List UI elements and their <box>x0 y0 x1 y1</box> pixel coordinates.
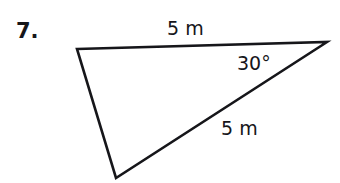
geometry-figure: 7. 5 m 30° 5 m <box>0 0 340 183</box>
triangle-diagram <box>0 0 340 183</box>
triangle-outline <box>77 42 327 178</box>
